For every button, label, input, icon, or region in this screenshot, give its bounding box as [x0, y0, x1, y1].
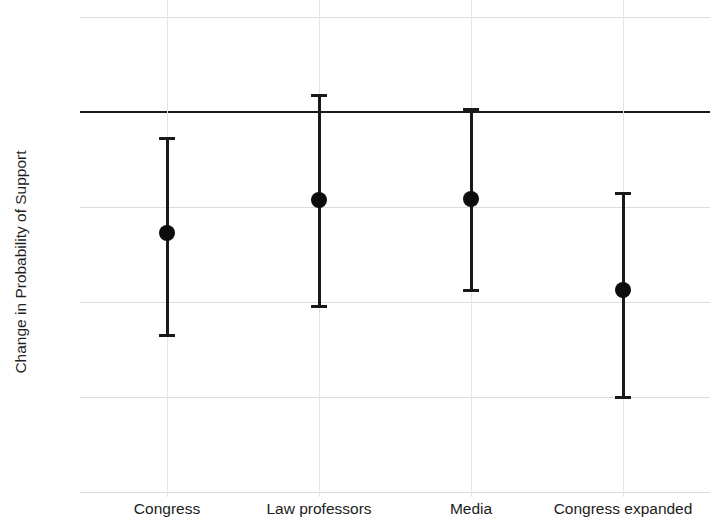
error-bar-lower-cap [159, 334, 175, 337]
data-point-marker [615, 282, 631, 298]
error-bar-lower-cap [311, 305, 327, 308]
x-axis-tick-label: Congress expanded [554, 500, 693, 518]
error-bar-lower-cap [463, 289, 479, 292]
gridline-horizontal [80, 207, 710, 208]
x-axis-tick-label: Congress [134, 500, 200, 518]
error-bar-upper-cap [463, 108, 479, 111]
error-bar-upper-cap [615, 192, 631, 195]
error-bar-upper-cap [311, 94, 327, 97]
error-bar-upper-cap [159, 137, 175, 140]
gridline-horizontal [80, 492, 710, 493]
x-axis-tick-label: Media [450, 500, 492, 518]
y-axis-title: Change in Probability of Support [0, 0, 42, 524]
data-point-marker [463, 191, 479, 207]
plot-area: .10-.1-.2-.3-.4 CongressLaw professorsMe… [80, 0, 710, 497]
gridline-horizontal [80, 302, 710, 303]
figure-root: Change in Probability of Support .10-.1-… [0, 0, 710, 524]
gridline-horizontal [80, 17, 710, 18]
data-point-marker [159, 225, 175, 241]
error-bar-lower-cap [615, 396, 631, 399]
zero-reference-line [80, 111, 710, 113]
data-point-marker [311, 192, 327, 208]
x-axis-tick-label: Law professors [266, 500, 371, 518]
